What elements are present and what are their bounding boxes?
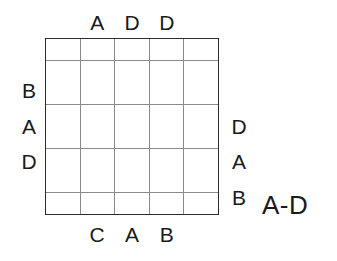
grid-cell[interactable] [184,61,218,105]
puzzle-figure: A D D C A B B A D D A B [0,0,337,261]
grid-cell[interactable] [149,148,183,192]
grid-row [46,105,218,149]
grid-cell[interactable] [149,61,183,105]
grid-cell[interactable] [149,192,183,214]
clue-top-col-3: D [115,12,150,33]
grid-cell[interactable] [115,61,149,105]
grid-cell[interactable] [184,148,218,192]
grid-cell[interactable] [115,148,149,192]
clue-left-row-4: D [18,151,40,172]
clue-left-row-3: A [18,116,40,137]
clue-bottom-col-4: B [149,224,184,245]
grid-cell[interactable] [46,192,80,214]
clue-right-row-4: A [228,151,250,172]
grid-cell[interactable] [46,105,80,149]
legend-range-label: A-D [262,192,308,218]
clue-bottom-col-2: C [80,224,115,245]
grid-cell[interactable] [80,192,114,214]
grid-cell[interactable] [80,61,114,105]
grid-cell[interactable] [46,61,80,105]
grid-body [46,39,218,214]
grid-table [46,39,218,214]
grid-cell[interactable] [149,105,183,149]
clue-bottom-col-3: A [115,224,150,245]
grid-cell[interactable] [184,39,218,61]
grid-cell[interactable] [80,39,114,61]
grid-row [46,61,218,105]
grid-cell[interactable] [184,105,218,149]
grid-cell[interactable] [80,105,114,149]
grid-cell[interactable] [184,192,218,214]
clue-left-row-2: B [18,80,40,101]
grid-row [46,39,218,61]
clue-right-row-3: D [228,116,250,137]
grid-row [46,192,218,214]
grid-cell[interactable] [46,39,80,61]
grid-cell[interactable] [115,105,149,149]
grid-cell[interactable] [46,148,80,192]
grid-row [46,148,218,192]
clue-top-col-4: D [149,12,184,33]
clue-right-row-5: B [228,187,250,208]
grid-cell[interactable] [149,39,183,61]
grid-cell[interactable] [80,148,114,192]
grid-cell[interactable] [115,192,149,214]
clue-top-col-2: A [80,12,115,33]
grid-cell[interactable] [115,39,149,61]
puzzle-grid[interactable] [45,38,219,215]
